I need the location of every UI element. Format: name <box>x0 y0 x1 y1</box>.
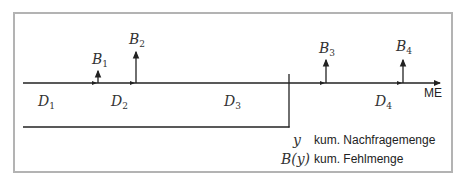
axis-arrow-icon <box>130 81 135 85</box>
legend-symbol-by: B(y) <box>280 151 310 167</box>
legend-text-demand: kum. Nachfragemenge <box>314 133 436 147</box>
backorder-label-1: B1 <box>91 51 108 69</box>
backorder-label-2: B2 <box>128 31 145 49</box>
axis-arrow-icon <box>92 81 97 85</box>
cumulative-demand-bracket <box>23 74 290 128</box>
demand-label-2: D2 <box>110 93 128 111</box>
demand-label-3: D3 <box>223 93 241 111</box>
quantity-axis <box>23 81 440 85</box>
demand-label-4: D4 <box>374 93 392 111</box>
axis-label: ME <box>424 86 442 100</box>
inventory-backorder-diagram: ME B1 B2 B3 B4 D1 D2 D3 D4 y kum. Nachfr… <box>0 0 464 181</box>
axis-arrow-icon <box>397 81 402 85</box>
backorder-label-3: B3 <box>318 40 335 58</box>
legend-text-shortage: kum. Fehlmenge <box>314 152 404 166</box>
axis-arrow-icon <box>320 81 325 85</box>
legend-symbol-y: y <box>292 132 302 148</box>
demand-label-1: D1 <box>37 93 55 111</box>
backorder-label-4: B4 <box>395 38 412 56</box>
